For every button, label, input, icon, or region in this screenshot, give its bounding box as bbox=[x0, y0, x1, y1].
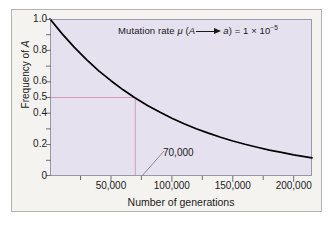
mutation-rate-annotation: Mutation rate μ (Aa) = 1 × 10−5 bbox=[118, 25, 278, 36]
annotation-close: ) = 1 bbox=[229, 25, 252, 36]
x-axis-title: Number of generations bbox=[50, 196, 312, 208]
decay-curve bbox=[50, 19, 312, 158]
annotation-lead: Mutation rate bbox=[118, 25, 178, 36]
x-tick-label: 100,000 bbox=[142, 180, 202, 191]
half-life-guide-lines bbox=[51, 98, 135, 176]
y-axis-title: Frequency of A bbox=[20, 20, 31, 130]
y-tick-label: 0 bbox=[21, 170, 47, 181]
x-tick-label: 150,000 bbox=[203, 180, 263, 191]
annotation-from-allele: A bbox=[189, 25, 195, 36]
y-axis-title-text: Frequency of bbox=[20, 47, 31, 108]
y-axis-title-allele: A bbox=[20, 41, 31, 48]
x-tick-label: 200,000 bbox=[264, 180, 324, 191]
callout-label-70000: 70,000 bbox=[163, 147, 194, 158]
annotation-exponent: −5 bbox=[270, 24, 278, 31]
y-tick-label: 0.2 bbox=[21, 138, 47, 149]
figure-container: Mutation rate μ (Aa) = 1 × 10−5 00.20.40… bbox=[0, 0, 334, 230]
annotation-base: 10 bbox=[257, 25, 271, 36]
right-arrow-icon bbox=[196, 27, 222, 35]
x-tick-label: 50,000 bbox=[81, 180, 141, 191]
